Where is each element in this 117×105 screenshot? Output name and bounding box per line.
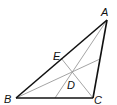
label-e: E: [53, 50, 61, 62]
label-d: D: [67, 79, 75, 91]
cevian-b-to-ac: [16, 59, 100, 98]
label-b: B: [4, 93, 11, 105]
label-c: C: [94, 94, 102, 105]
label-a: A: [100, 6, 108, 18]
triangle-diagram: A B C D E: [0, 0, 117, 105]
side-ac: [93, 20, 107, 98]
side-ab: [16, 20, 107, 98]
